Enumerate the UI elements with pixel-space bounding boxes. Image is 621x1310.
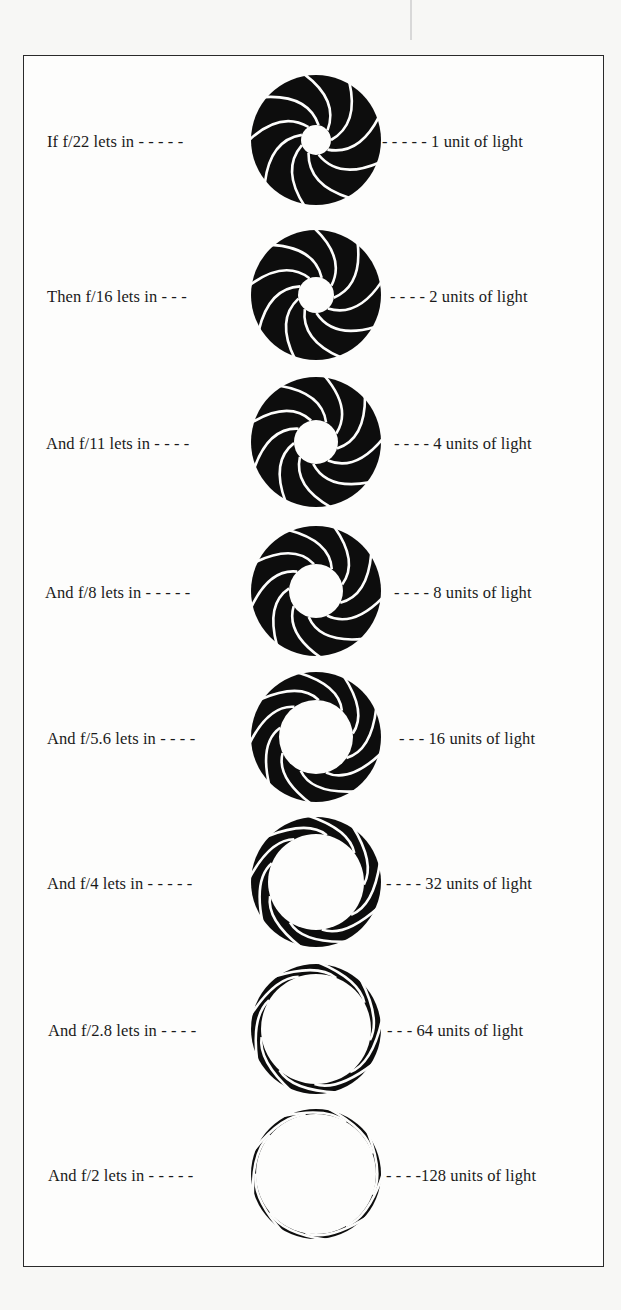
light-units-label: - - - - 32 units of light	[386, 874, 532, 894]
f-stop-label: And f/11 lets in - - - -	[46, 434, 189, 454]
aperture-iris-icon	[249, 815, 383, 953]
light-units-label: - - - 16 units of light	[399, 729, 535, 749]
light-units-label: - - - 64 units of light	[387, 1021, 523, 1041]
light-units-label: - - - - 8 units of light	[394, 583, 532, 603]
f-stop-label: If f/22 lets in - - - - -	[47, 132, 183, 152]
aperture-iris-icon	[249, 228, 383, 366]
aperture-row-f16: Then f/16 lets in - - -- - - - 2 units o…	[24, 227, 603, 367]
aperture-diagram-frame: If f/22 lets in - - - - -- - - - - 1 uni…	[23, 55, 604, 1267]
aperture-row-f22: If f/22 lets in - - - - -- - - - - 1 uni…	[24, 72, 603, 212]
light-units-label: - - - - 4 units of light	[394, 434, 532, 454]
f-stop-label: And f/2 lets in - - - - -	[48, 1166, 193, 1186]
aperture-row-f2: And f/2 lets in - - - - -- - - -128 unit…	[24, 1106, 603, 1246]
f-stop-label: And f/4 lets in - - - - -	[47, 874, 192, 894]
aperture-row-f5-6: And f/5.6 lets in - - - -- - - 16 units …	[24, 669, 603, 809]
aperture-row-f2-8: And f/2.8 lets in - - - -- - - 64 units …	[24, 961, 603, 1101]
aperture-iris-icon	[249, 375, 383, 513]
f-stop-label: And f/5.6 lets in - - - -	[47, 729, 195, 749]
aperture-iris-icon	[249, 524, 383, 662]
aperture-iris-icon	[249, 1107, 383, 1245]
light-units-label: - - - - 2 units of light	[390, 287, 528, 307]
page-fold-line	[410, 0, 412, 40]
aperture-row-f8: And f/8 lets in - - - - -- - - - 8 units…	[24, 523, 603, 663]
f-stop-label: And f/8 lets in - - - - -	[45, 583, 190, 603]
aperture-iris-icon	[249, 73, 383, 211]
aperture-row-f4: And f/4 lets in - - - - -- - - - 32 unit…	[24, 814, 603, 954]
light-units-label: - - - -128 units of light	[386, 1166, 536, 1186]
f-stop-label: And f/2.8 lets in - - - -	[48, 1021, 196, 1041]
light-units-label: - - - - - 1 unit of light	[382, 132, 523, 152]
aperture-iris-icon	[249, 962, 383, 1100]
aperture-iris-icon	[249, 670, 383, 808]
aperture-row-f11: And f/11 lets in - - - -- - - - 4 units …	[24, 374, 603, 514]
f-stop-label: Then f/16 lets in - - -	[47, 287, 187, 307]
